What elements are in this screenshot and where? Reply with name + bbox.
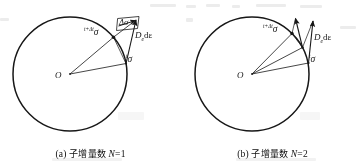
elastic-trial-label: Dedε xyxy=(314,32,331,44)
stress-new-point xyxy=(290,32,293,35)
radius-to-substep-point xyxy=(252,48,303,75)
panel-subincrement-1: O t+Δtσ tσ Δσ Dedε (a) 子增量数 N=1 xyxy=(0,0,181,166)
radius-to-stress-old xyxy=(252,63,309,74)
elastic-trial-label: Dedε xyxy=(135,30,152,42)
stress-old-label: tσ xyxy=(309,53,315,64)
return-line-step-2 xyxy=(292,19,296,34)
caption-b: (b) 子增量数 N=2 xyxy=(182,147,363,160)
radius-to-stress-new xyxy=(252,34,292,75)
origin-label: O xyxy=(55,70,62,80)
caption-a-chinese: 子增量数 xyxy=(69,149,106,159)
figure-root: O t+Δtσ tσ Δσ Dedε (a) 子增量数 N=1 xyxy=(0,0,363,166)
stress-new-symbol: σ xyxy=(94,27,99,37)
caption-a-value: =1 xyxy=(115,149,126,159)
caption-b-value: =2 xyxy=(297,149,308,159)
stress-old-symbol: σ xyxy=(128,54,133,64)
stress-old-label: tσ xyxy=(126,53,132,64)
stress-new-superscript: t+Δt xyxy=(84,26,94,32)
radius-to-stress-new xyxy=(70,37,114,74)
stress-new-label: t+Δtσ xyxy=(84,26,98,37)
stress-new-point xyxy=(112,36,115,39)
radius-to-stress-old xyxy=(70,64,126,75)
caption-b-chinese: 子增量数 xyxy=(251,149,288,159)
caption-b-prefix: (b) xyxy=(237,149,249,159)
stress-old-symbol: σ xyxy=(311,54,316,64)
delta-sigma-text: Δσ xyxy=(119,17,128,27)
stress-new-label: t+Δtσ xyxy=(263,23,277,34)
panel-subincrement-2: O t+Δtσ tσ Dedε (b) 子增量数 N=2 xyxy=(182,0,363,166)
stress-new-superscript: t+Δt xyxy=(263,23,273,29)
substep-point xyxy=(301,46,303,48)
delta-sigma-label: Δσ xyxy=(119,17,128,27)
origin-label: O xyxy=(237,70,244,80)
strain-increment-symbol: dε xyxy=(323,32,331,42)
diagram-a-svg xyxy=(0,0,181,166)
strain-increment-symbol: dε xyxy=(144,30,152,40)
caption-a: (a) 子增量数 N=1 xyxy=(0,147,181,160)
corrector-edge xyxy=(114,37,127,63)
caption-a-prefix: (a) xyxy=(55,149,66,159)
stress-new-symbol: σ xyxy=(273,24,278,34)
